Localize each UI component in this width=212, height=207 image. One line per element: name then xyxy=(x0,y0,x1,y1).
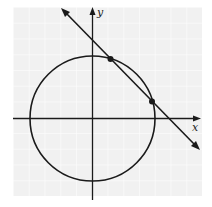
coordinate-diagram: x y xyxy=(0,0,212,207)
grid-background xyxy=(13,7,202,196)
y-axis-label: y xyxy=(96,6,104,19)
intersection-point-upper xyxy=(108,56,114,62)
x-axis-label: x xyxy=(192,121,199,134)
intersection-point-lower xyxy=(149,99,155,105)
